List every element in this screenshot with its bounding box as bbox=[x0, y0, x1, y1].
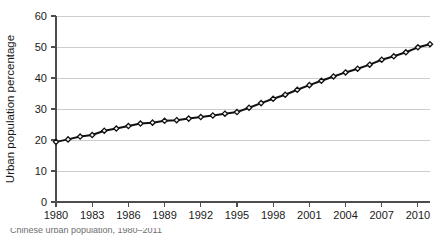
x-tick-label-1986: 1986 bbox=[116, 209, 140, 221]
x-tick-label-1995: 1995 bbox=[225, 209, 249, 221]
figure-caption: Chinese urban population, 1980–2011 bbox=[0, 228, 435, 237]
x-tick-label-1980: 1980 bbox=[44, 209, 68, 221]
chart-figure: 0102030405060 19801983198619891992199519… bbox=[0, 0, 435, 237]
y-tick-label-60: 60 bbox=[35, 10, 47, 22]
y-tick-label-40: 40 bbox=[35, 72, 47, 84]
y-tick-label-0: 0 bbox=[41, 196, 47, 208]
x-tick-label-1992: 1992 bbox=[189, 209, 213, 221]
x-tick-label-2001: 2001 bbox=[297, 209, 321, 221]
x-tick-label-1998: 1998 bbox=[261, 209, 285, 221]
x-tick-label-2010: 2010 bbox=[406, 209, 430, 221]
y-tick-label-10: 10 bbox=[35, 165, 47, 177]
x-tick-label-1983: 1983 bbox=[80, 209, 104, 221]
y-axis-label: Urban population percentage bbox=[4, 35, 16, 183]
urban-population-line-chart: 0102030405060 19801983198619891992199519… bbox=[0, 0, 435, 237]
y-tick-label-20: 20 bbox=[35, 134, 47, 146]
x-tick-label-2004: 2004 bbox=[333, 209, 357, 221]
y-tick-label-30: 30 bbox=[35, 103, 47, 115]
x-tick-label-2007: 2007 bbox=[369, 209, 393, 221]
figure-caption-text: Chinese urban population, 1980–2011 bbox=[10, 228, 162, 235]
x-tick-label-1989: 1989 bbox=[152, 209, 176, 221]
y-tick-label-50: 50 bbox=[35, 41, 47, 53]
